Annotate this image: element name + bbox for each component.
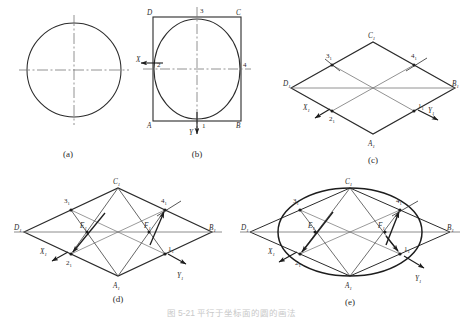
construction-a1-to-4-d bbox=[118, 210, 165, 276]
construction-a1-to-4-e bbox=[350, 210, 400, 276]
midpoint-3-e bbox=[298, 208, 301, 211]
corner-label-a1-e: A1 bbox=[344, 282, 352, 291]
figure-title-caption: 图 5-21 平行于坐标面的圆的画法 bbox=[0, 307, 463, 319]
midpoint-1-e bbox=[398, 252, 401, 255]
midpoint-1-d bbox=[163, 252, 166, 255]
corner-label-b1-c: B1 bbox=[452, 80, 459, 89]
point-label-2-1-c: 21 bbox=[329, 115, 336, 124]
panel-a bbox=[19, 15, 129, 125]
point-label-2-1-d: 21 bbox=[66, 259, 73, 268]
point-label-3-1-d: 31 bbox=[64, 197, 71, 206]
point-label-3-b: 3 bbox=[200, 7, 204, 15]
y1-axis-arrow-e bbox=[404, 256, 424, 268]
panel-caption-e: (e) bbox=[345, 297, 355, 307]
corner-label-a1-c: A1 bbox=[367, 140, 375, 149]
construction-c1-to-1-d bbox=[118, 188, 165, 254]
y1-axis-arrow-d bbox=[168, 254, 186, 264]
axis-label-x1-e: X1 bbox=[267, 248, 275, 257]
corner-label-d1-c: D1 bbox=[282, 80, 291, 89]
corner-label-b1-d: B1 bbox=[209, 224, 216, 233]
construction-c1-to-2-d bbox=[71, 188, 118, 254]
corner-label-b1-e: B1 bbox=[447, 224, 454, 233]
midpoint-2-e bbox=[298, 252, 301, 255]
point-label-4-1-e: 41 bbox=[396, 197, 403, 206]
midpoint-3-d bbox=[69, 208, 72, 211]
center-label-e1-d: E1 bbox=[79, 222, 87, 231]
panel-d: X1 Y1 D1 B1 C1 A1 E1 F1 31 41 21 11 bbox=[13, 178, 222, 291]
panel-caption-d: (d) bbox=[113, 294, 124, 304]
center-point-f1-d bbox=[148, 231, 151, 234]
corner-label-c-b: C bbox=[236, 9, 241, 17]
isometric-circle-construction-figure: X Y D C A B 3 2 4 1 X1 Y1 D1 B1 C1 bbox=[0, 0, 463, 319]
axis-label-y1-d: Y1 bbox=[177, 272, 183, 281]
point-label-3-1-c: 31 bbox=[326, 52, 333, 61]
corner-label-b-b: B bbox=[236, 122, 241, 130]
midpoint-1-c bbox=[413, 110, 416, 113]
point-label-4-1-c: 41 bbox=[411, 52, 418, 61]
panel-caption-b: (b) bbox=[192, 149, 203, 159]
corner-label-d1-e: D1 bbox=[240, 224, 249, 233]
axis-label-x-b: X bbox=[135, 56, 141, 64]
axis-label-y-b: Y bbox=[189, 129, 194, 137]
point-label-2-b: 2 bbox=[157, 61, 161, 69]
corner-label-c1-e: C1 bbox=[345, 178, 352, 187]
point-label-2-1-e: 21 bbox=[295, 259, 302, 268]
point-label-1-1-e: 11 bbox=[404, 245, 411, 254]
center-label-f1-e: F1 bbox=[377, 222, 385, 231]
panel-e: X1 Y1 D1 B1 C1 A1 E1 F1 31 41 21 11 bbox=[240, 178, 460, 291]
corner-label-d1-d: D1 bbox=[13, 224, 22, 233]
axis-label-y1-c: Y1 bbox=[428, 107, 434, 116]
midpoint-2-c bbox=[331, 110, 334, 113]
center-point-f1-e bbox=[384, 231, 387, 234]
panel-caption-a: (a) bbox=[63, 149, 73, 159]
point-label-1-1-d: 11 bbox=[168, 245, 175, 254]
point-label-1-b: 1 bbox=[202, 122, 206, 130]
point-label-1-1-c: 11 bbox=[418, 102, 425, 111]
construction-a1-to-3-e bbox=[300, 210, 350, 276]
panel-c: X1 Y1 D1 B1 C1 A1 31 41 21 11 bbox=[282, 32, 459, 149]
center-label-e1-e: E1 bbox=[307, 222, 315, 231]
point-label-4-b: 4 bbox=[243, 61, 247, 69]
axis-label-x1-d: X1 bbox=[39, 248, 47, 257]
construction-a1-to-3-d bbox=[71, 210, 118, 276]
corner-label-c1-c: C1 bbox=[368, 32, 375, 41]
panel-caption-c: (c) bbox=[368, 155, 378, 165]
point-label-3-1-e: 31 bbox=[293, 197, 300, 206]
radius-arrow-to-4-e bbox=[386, 212, 399, 245]
corner-label-c1-d: C1 bbox=[113, 178, 120, 187]
corner-label-a-b: A bbox=[146, 122, 152, 130]
axis-label-y1-e: Y1 bbox=[415, 275, 421, 284]
point-label-4-1-d: 41 bbox=[161, 197, 168, 206]
center-label-f1-d: F1 bbox=[143, 222, 151, 231]
corner-label-d-b: D bbox=[146, 9, 153, 17]
midpoint-2-d bbox=[69, 252, 72, 255]
x1-axis-arrow-c bbox=[315, 109, 330, 118]
axis-label-x1-c: X1 bbox=[302, 104, 310, 113]
tick-3-c bbox=[325, 59, 340, 71]
panel-b: X Y D C A B 3 2 4 1 bbox=[135, 7, 251, 137]
corner-label-a1-d: A1 bbox=[112, 282, 120, 291]
